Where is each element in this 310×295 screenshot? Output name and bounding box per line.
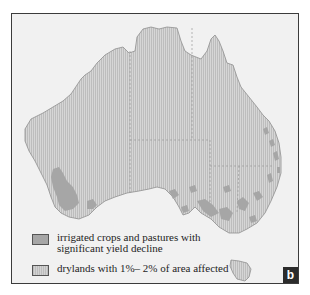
- legend-label-drylands: drylands with 1%– 2% of area affected: [57, 263, 228, 274]
- legend-item-irrigated: irrigated crops and pastures with signif…: [32, 232, 228, 254]
- legend-label-irrigated: irrigated crops and pastures with signif…: [57, 232, 201, 254]
- map-figure-frame: irrigated crops and pastures with signif…: [11, 13, 299, 284]
- legend-label-line2: significant yield decline: [57, 242, 163, 254]
- map-legend: irrigated crops and pastures with signif…: [32, 232, 228, 276]
- drylands-swatch-icon: [32, 265, 49, 276]
- panel-label-badge: b: [283, 267, 298, 283]
- legend-item-drylands: drylands with 1%– 2% of area affected: [32, 263, 228, 276]
- irrigated-swatch-icon: [32, 234, 49, 245]
- tasmania-outline: [230, 260, 251, 281]
